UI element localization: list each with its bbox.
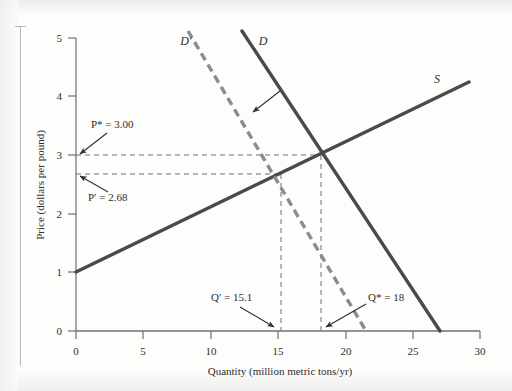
annotation-q-prime-label: Q′ = 15.1 — [211, 291, 252, 303]
x-tick-label-5: 5 — [140, 345, 146, 357]
annotation-p-star: P* = 3.00 — [80, 118, 134, 154]
x-tick-label-15: 15 — [273, 345, 285, 357]
y-tick-label-4: 4 — [57, 90, 63, 102]
x-tick-label-10: 10 — [206, 345, 218, 357]
annotation-p-prime: P′ = 2.68 — [80, 176, 128, 203]
guide-lines-group — [76, 155, 321, 331]
figure-page: 5 4 3 2 1 0 0 5 10 15 20 25 30 Quantity … — [0, 0, 512, 391]
curve-label-d-prime: D′ — [179, 34, 192, 48]
x-tick-label-25: 25 — [408, 345, 420, 357]
y-tick-label-2: 2 — [57, 208, 63, 220]
x-tick-label-0: 0 — [73, 345, 79, 357]
y-tick-label-0: 0 — [57, 325, 63, 337]
annotation-q-prime: Q′ = 15.1 — [211, 291, 274, 327]
x-tick-label-20: 20 — [341, 345, 353, 357]
x-axis-ticks: 0 5 10 15 20 25 30 — [73, 331, 486, 357]
annotation-q-star-label: Q* = 18 — [368, 291, 405, 303]
curves-group — [76, 31, 469, 331]
demand-shift-arrow — [253, 91, 280, 112]
curve-label-d: D — [258, 34, 268, 48]
demand-curve-d — [242, 31, 440, 331]
axes-group — [76, 38, 480, 331]
annotation-q-prime-leader — [240, 307, 274, 327]
supply-curve-s — [76, 82, 469, 272]
annotation-q-star: Q* = 18 — [326, 291, 405, 327]
y-tick-label-5: 5 — [57, 32, 63, 44]
y-tick-label-1: 1 — [57, 266, 63, 278]
x-tick-label-30: 30 — [475, 345, 487, 357]
annotation-p-star-leader — [80, 133, 107, 154]
annotation-p-prime-label: P′ = 2.68 — [88, 191, 128, 203]
annotation-p-prime-leader — [80, 176, 108, 192]
supply-demand-chart: 5 4 3 2 1 0 0 5 10 15 20 25 30 Quantity … — [0, 0, 512, 391]
annotation-p-star-label: P* = 3.00 — [91, 118, 134, 130]
y-tick-label-3: 3 — [57, 149, 63, 161]
x-axis-title: Quantity (million metric tons/yr) — [208, 365, 353, 378]
y-axis-ticks: 5 4 3 2 1 0 — [57, 32, 77, 337]
curve-label-s: S — [434, 72, 440, 86]
y-axis-title: Price (dollars per pound) — [34, 130, 47, 240]
